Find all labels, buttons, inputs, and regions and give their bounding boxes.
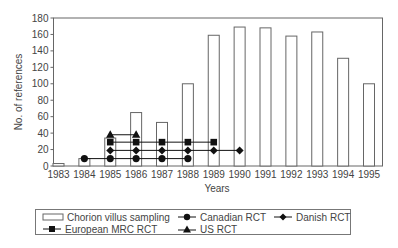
x-tick-label: 1985 <box>99 169 122 180</box>
x-tick-label: 1991 <box>254 169 277 180</box>
legend-item-us: US RCT <box>177 223 237 235</box>
circle-marker <box>158 155 165 162</box>
bar <box>260 28 271 166</box>
chart: 020406080100120140160180 198319841985198… <box>0 0 398 205</box>
open-rect-icon <box>42 213 64 221</box>
bar <box>286 36 297 166</box>
x-tick-label: 1990 <box>229 169 252 180</box>
y-tick-label: 60 <box>37 111 49 122</box>
bar <box>312 32 323 166</box>
square-marker <box>107 139 114 146</box>
x-axis: 1983198419851986198719881989199019911992… <box>47 169 380 180</box>
series-canadian-rct <box>81 155 192 162</box>
square-marker <box>159 139 166 146</box>
bar <box>234 27 245 166</box>
square-marker <box>210 139 217 146</box>
square-marker-icon <box>42 225 62 233</box>
legend-label: Canadian RCT <box>200 212 266 223</box>
bar <box>364 84 375 166</box>
legend-item-canadian: Canadian RCT <box>177 211 266 223</box>
triangle-marker-icon <box>177 225 197 233</box>
bar <box>53 164 64 166</box>
series-european-mrc-rct <box>107 139 217 146</box>
x-tick-label: 1987 <box>151 169 174 180</box>
circle-marker <box>81 155 88 162</box>
legend-label: Danish RCT <box>296 212 350 223</box>
y-tick-label: 160 <box>32 29 49 40</box>
x-tick-label: 1984 <box>73 169 96 180</box>
x-axis-label: Years <box>204 183 229 194</box>
diamond-marker-icon <box>273 213 293 221</box>
y-tick-label: 20 <box>37 144 49 155</box>
series-danish-rct <box>106 146 243 154</box>
x-tick-label: 1986 <box>125 169 148 180</box>
circle-marker-icon <box>177 213 197 221</box>
y-tick-label: 140 <box>32 45 49 56</box>
x-tick-label: 1983 <box>47 169 70 180</box>
y-tick-label: 180 <box>32 13 49 24</box>
circle-marker <box>107 155 114 162</box>
square-marker <box>185 139 192 146</box>
legend-item-european: European MRC RCT <box>42 223 157 235</box>
y-tick-label: 80 <box>37 95 49 106</box>
x-tick-label: 1995 <box>358 169 381 180</box>
legend-label: European MRC RCT <box>65 224 157 235</box>
square-marker <box>133 139 140 146</box>
x-tick-label: 1993 <box>306 169 329 180</box>
circle-marker <box>133 155 140 162</box>
legend-label: Chorion villus sampling <box>67 212 170 223</box>
bar <box>338 58 349 166</box>
y-axis-label: No. of references <box>13 54 24 131</box>
y-tick-label: 120 <box>32 62 49 73</box>
y-axis: 020406080100120140160180 <box>32 13 54 172</box>
circle-marker <box>184 155 191 162</box>
y-tick-label: 100 <box>32 78 49 89</box>
x-tick-label: 1989 <box>203 169 226 180</box>
y-tick-label: 40 <box>37 128 49 139</box>
legend-item-chorion: Chorion villus sampling <box>42 211 170 223</box>
x-tick-label: 1992 <box>280 169 303 180</box>
triangle-marker <box>106 130 114 138</box>
x-tick-label: 1988 <box>177 169 200 180</box>
legend: Chorion villus sampling Canadian RCT Dan… <box>35 209 351 235</box>
x-tick-label: 1994 <box>332 169 355 180</box>
legend-label: US RCT <box>200 224 237 235</box>
legend-item-danish: Danish RCT <box>273 211 350 223</box>
